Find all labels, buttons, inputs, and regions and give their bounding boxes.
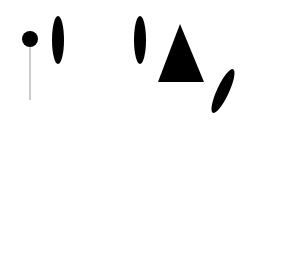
prism — [158, 24, 204, 82]
lens-l1 — [52, 16, 64, 64]
lens-l3 — [207, 67, 238, 116]
light-source — [22, 31, 38, 47]
spectrometer-figure — [0, 0, 297, 268]
screen-b — [232, 64, 256, 133]
lens-l2 — [134, 16, 146, 64]
